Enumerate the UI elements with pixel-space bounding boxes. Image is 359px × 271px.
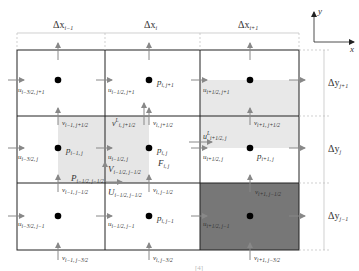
axes-indicator — [314, 12, 354, 42]
dy-label-jp1: Δyj+1 — [328, 77, 348, 89]
dx-label-im1: Δxi−1 — [53, 19, 73, 31]
v-label-ip1-jm32: vi+1, j−3/2 — [254, 254, 280, 263]
v-label-im1-jm12: vi−1, j−1/2 — [62, 186, 88, 195]
dy-label-jm1: Δyj−1 — [328, 210, 348, 222]
u-label-im32-jp1: ui−3/2, j+1 — [18, 86, 45, 95]
v-label-i-jm32: vi, j−3/2 — [153, 254, 173, 263]
v-label-i-jm12: vi, j−1/2 — [153, 186, 173, 195]
x-dimension-lines — [17, 33, 299, 50]
u-label-im32-jm1: ui−3/2, j−1 — [18, 220, 45, 229]
caption-fragment: [4] — [195, 264, 203, 271]
u-label-im12-jp1: ui−1/2, j+1 — [108, 86, 135, 95]
x-axis-label: x — [349, 44, 354, 54]
p-label-i-j: pi, j — [156, 145, 168, 156]
v-label-im1-jm32: vi−1, j−3/2 — [62, 254, 88, 263]
p-label-i-jp1: pi, j+1 — [156, 77, 174, 88]
dx-label-i: Δxi — [144, 19, 157, 31]
p-label-i-jm1: pi, j−1 — [156, 213, 174, 224]
dx-label-ip1: Δxi+1 — [238, 19, 258, 31]
u-label-ip12-j: ui+1/2, j — [203, 153, 224, 162]
U-label: Ui−1/2, j−1/2 — [108, 187, 142, 198]
u-label-im12-jm1: ui−1/2, j−1 — [108, 220, 135, 229]
y-axis-label: y — [317, 6, 322, 16]
u-label-im32-j: ui−3/2, j — [18, 153, 39, 162]
p-label-ip1-j: pi+1, j — [256, 151, 274, 162]
dy-label-j: Δyj — [328, 143, 341, 155]
v-label-i-jp12: vi, j+1/2 — [153, 119, 173, 128]
F-label: Fi, j — [157, 158, 170, 169]
staggered-grid-diagram: Δxi−1 Δxi Δxi+1 Δyj+1 Δyj Δyj−1 y x — [0, 0, 359, 271]
